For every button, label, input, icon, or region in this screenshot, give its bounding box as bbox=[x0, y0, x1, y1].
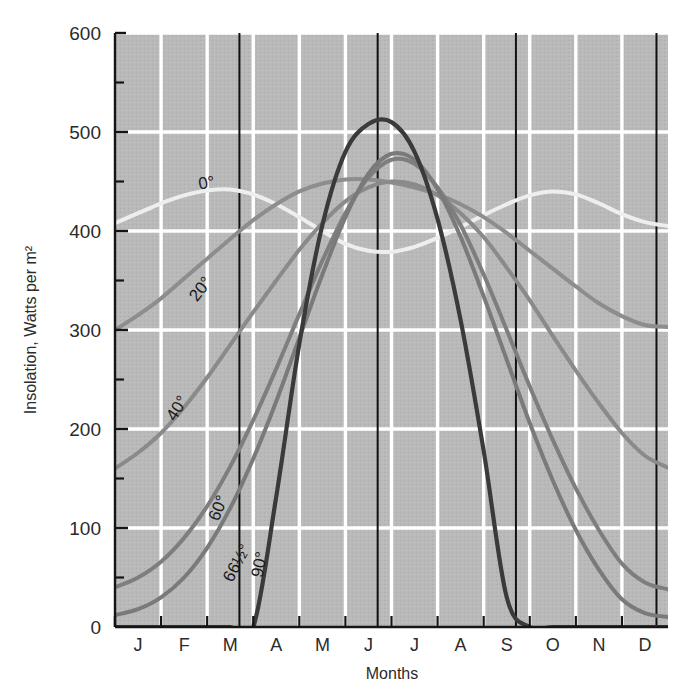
insolation-chart-figure: 0°20°40°60°66½°90° 0100200300400500600 J… bbox=[0, 0, 684, 697]
chart-canvas: 0°20°40°60°66½°90° 0100200300400500600 J… bbox=[0, 0, 684, 697]
y-axis-title: Insolation, Watts per m² bbox=[22, 245, 39, 414]
x-tick-label: J bbox=[134, 635, 143, 655]
x-axis-title: Months bbox=[366, 665, 418, 682]
x-tick-label: N bbox=[592, 635, 605, 655]
y-tick-label: 100 bbox=[69, 518, 101, 539]
x-axis-tick-labels: JFMAMJJASOND bbox=[134, 635, 652, 655]
y-tick-label: 300 bbox=[69, 320, 101, 341]
curve-label-0deg: 0° bbox=[197, 172, 216, 193]
y-tick-label: 200 bbox=[69, 419, 101, 440]
x-tick-label: J bbox=[410, 635, 419, 655]
x-tick-label: F bbox=[179, 635, 190, 655]
y-tick-label: 400 bbox=[69, 221, 101, 242]
x-tick-label: M bbox=[315, 635, 330, 655]
x-tick-label: J bbox=[364, 635, 373, 655]
x-tick-label: A bbox=[270, 635, 282, 655]
y-axis-tick-labels: 0100200300400500600 bbox=[69, 23, 101, 638]
y-tick-label: 0 bbox=[90, 617, 101, 638]
y-tick-label: 500 bbox=[69, 122, 101, 143]
x-tick-label: S bbox=[501, 635, 513, 655]
x-tick-label: A bbox=[455, 635, 467, 655]
x-tick-label: M bbox=[223, 635, 238, 655]
y-tick-label: 600 bbox=[69, 23, 101, 44]
x-tick-label: D bbox=[638, 635, 651, 655]
x-tick-label: O bbox=[546, 635, 560, 655]
